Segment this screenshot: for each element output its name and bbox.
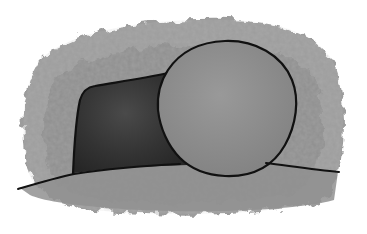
tomb-illustration [0,0,367,234]
rolling-stone [158,41,296,176]
